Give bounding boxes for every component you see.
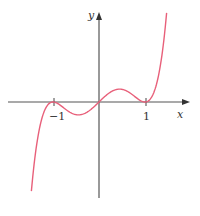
y-axis-arrow-icon bbox=[96, 12, 102, 20]
tick-label-pos1: 1 bbox=[143, 110, 150, 123]
function-graph: −1 1 x y bbox=[0, 0, 200, 216]
x-axis-arrow-icon bbox=[182, 99, 190, 105]
y-axis-label: y bbox=[87, 9, 95, 22]
x-axis-label: x bbox=[177, 108, 184, 121]
tick-label-neg1: −1 bbox=[49, 110, 65, 123]
